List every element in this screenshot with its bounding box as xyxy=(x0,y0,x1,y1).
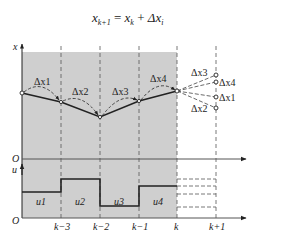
x-axis-label: x xyxy=(12,41,18,52)
pred-delta-x1-label: Δx1 xyxy=(219,92,235,103)
tick-k+1: k+1 xyxy=(209,221,225,232)
receding-horizon-diagram: xk+1 = xk + Δxi x O u O k−3 k−2 k−1 k k+… xyxy=(0,0,301,233)
delta-x4-label: Δx4 xyxy=(150,73,166,84)
update-formula: xk+1 = xk + Δxi xyxy=(91,10,163,27)
tick-k-3: k−3 xyxy=(54,221,70,232)
delta-x1-label: Δx1 xyxy=(34,76,50,87)
delta-x2-label: Δx2 xyxy=(72,86,88,97)
u2-label: u2 xyxy=(75,196,85,207)
pred-delta-x2-label: Δx2 xyxy=(191,103,207,114)
origin-top-label: O xyxy=(12,153,19,164)
pred-delta-x4-label: Δx4 xyxy=(219,77,235,88)
u-axis-label: u xyxy=(12,164,17,175)
delta-x3-label: Δx3 xyxy=(112,86,128,97)
u1-label: u1 xyxy=(36,196,46,207)
u4-label: u4 xyxy=(153,196,163,207)
origin-bottom-label: O xyxy=(12,215,19,226)
tick-k-2: k−2 xyxy=(93,221,109,232)
formula-text: xk+1 = xk + Δxi xyxy=(91,10,163,27)
tick-k-1: k−1 xyxy=(132,221,148,232)
control-projections xyxy=(177,179,216,207)
tick-k: k xyxy=(174,221,179,232)
u3-label: u3 xyxy=(114,196,124,207)
pred-delta-x3-label: Δx3 xyxy=(191,67,207,78)
tick-labels: k−3 k−2 k−1 k k+1 xyxy=(54,221,225,232)
